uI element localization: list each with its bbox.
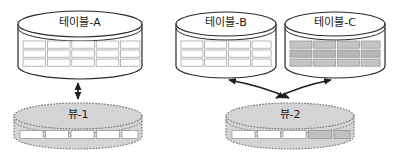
view-2-cylinder: 뷰-2	[226, 103, 354, 149]
table-b-cylinder: 테이블-B	[176, 12, 276, 78]
table-b-grid	[181, 41, 271, 66]
view-1-cylinder: 뷰-1	[14, 103, 142, 149]
table-c-cylinder: 테이블-C	[285, 12, 385, 78]
database-view-diagram: 테이블-A	[0, 0, 396, 157]
view-1-label: 뷰-1	[68, 108, 89, 121]
table-a-grid	[23, 41, 140, 66]
table-a-cylinder: 테이블-A	[18, 11, 142, 79]
table-c-grid	[290, 41, 380, 66]
table-c-label: 테이블-C	[314, 16, 356, 29]
diagram-canvas: 테이블-A	[0, 0, 396, 157]
table-b-label: 테이블-B	[205, 16, 247, 29]
table-a-label: 테이블-A	[59, 16, 101, 29]
view-2-label: 뷰-2	[280, 108, 301, 121]
